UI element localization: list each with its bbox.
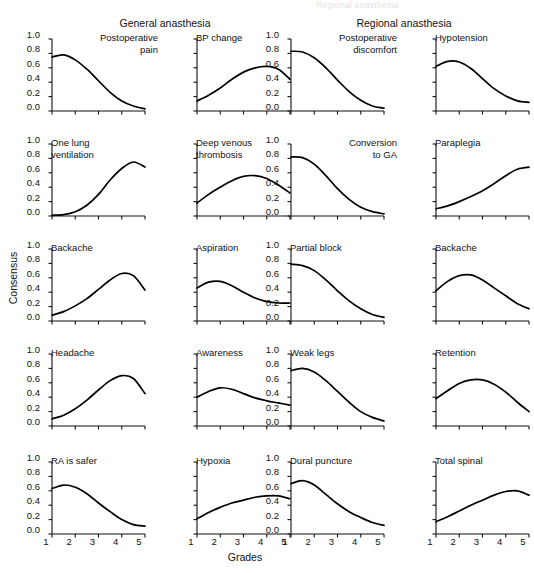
- x-tick-label: 2: [59, 536, 79, 547]
- y-tick-label: 0.2: [241, 87, 279, 98]
- panel-backache: [46, 245, 153, 329]
- data-curve: [52, 55, 145, 109]
- panel-plot-area: [430, 140, 534, 224]
- y-tick-label: 0.2: [241, 297, 279, 308]
- x-tick-label: 4: [251, 536, 271, 547]
- group-title-general: General anasthesia: [46, 17, 284, 29]
- x-tick-label: 1: [36, 536, 56, 547]
- y-tick-label: 0.8: [2, 148, 40, 159]
- y-tick-label: 0.2: [2, 510, 40, 521]
- y-tick-label: 0.6: [241, 163, 279, 174]
- y-tick-label: 0.6: [241, 58, 279, 69]
- y-tick-label: 0.2: [2, 402, 40, 413]
- x-tick-label: 2: [443, 536, 463, 547]
- panel-ra-is-safer: [46, 458, 153, 542]
- panel-plot-area: [46, 245, 153, 329]
- panel-plot-area: [285, 350, 392, 434]
- panel-title: Postoperative pain: [51, 32, 158, 55]
- x-tick-label: 1: [181, 536, 201, 547]
- y-tick-label: 0.0: [241, 524, 279, 535]
- panel-title: Dural puncture: [290, 455, 397, 467]
- data-curve: [291, 51, 384, 108]
- x-tick-label: 3: [228, 536, 248, 547]
- x-tick-label: 3: [83, 536, 103, 547]
- y-tick-label: 1.0: [2, 452, 40, 463]
- data-curve: [291, 481, 384, 526]
- y-tick-label: 0.8: [241, 148, 279, 159]
- y-tick-label: 1.0: [241, 134, 279, 145]
- y-tick-label: 0.4: [2, 495, 40, 506]
- y-tick-label: 1.0: [241, 452, 279, 463]
- panel-partial-block: [285, 245, 392, 329]
- panel-title: One lung ventilation: [51, 137, 158, 160]
- y-tick-label: 1.0: [2, 344, 40, 355]
- data-curve: [291, 264, 384, 317]
- panel-plot-area: [430, 35, 534, 119]
- panel-plot-area: [430, 245, 534, 329]
- y-tick-label: 1.0: [241, 239, 279, 250]
- panel-title: Retention: [435, 347, 534, 359]
- scan-artifact-text: Regional anasthesia: [316, 0, 487, 16]
- y-tick-label: 0.0: [2, 416, 40, 427]
- panel-plot-area: [285, 458, 392, 542]
- panel-plot-area: [430, 458, 534, 542]
- panel-weak-legs: [285, 350, 392, 434]
- y-tick-label: 0.6: [2, 481, 40, 492]
- panel-title: RA is safer: [51, 455, 158, 467]
- x-tick-label: 3: [322, 536, 342, 547]
- x-tick-label: 4: [106, 536, 126, 547]
- y-tick-label: 0.2: [2, 87, 40, 98]
- panel-plot-area: [46, 458, 153, 542]
- y-tick-label: 0.4: [2, 387, 40, 398]
- panel-title: Backache: [51, 242, 158, 254]
- y-tick-label: 0.8: [241, 466, 279, 477]
- y-tick-label: 0.2: [2, 192, 40, 203]
- y-tick-label: 0.6: [241, 268, 279, 279]
- panel-hypotension: [430, 35, 534, 119]
- y-tick-label: 1.0: [2, 134, 40, 145]
- group-title-regional: Regional anasthesia: [285, 17, 523, 29]
- data-curve: [291, 157, 384, 214]
- panel-title: Paraplegia: [435, 137, 534, 149]
- y-tick-label: 0.2: [241, 402, 279, 413]
- y-tick-label: 0.4: [2, 72, 40, 83]
- y-tick-label: 0.8: [2, 466, 40, 477]
- y-tick-label: 0.4: [241, 387, 279, 398]
- data-curve: [52, 162, 145, 215]
- x-tick-label: 5: [513, 536, 533, 547]
- y-tick-label: 1.0: [241, 29, 279, 40]
- data-curve: [52, 485, 145, 526]
- panel-plot-area: [430, 350, 534, 434]
- y-tick-label: 0.0: [2, 206, 40, 217]
- x-tick-label: 2: [204, 536, 224, 547]
- y-tick-label: 0.8: [2, 358, 40, 369]
- y-tick-label: 0.4: [241, 72, 279, 83]
- y-tick-label: 0.8: [2, 43, 40, 54]
- panel-dural-puncture: [285, 458, 392, 542]
- panel-retention: [430, 350, 534, 434]
- y-tick-label: 0.0: [2, 101, 40, 112]
- y-tick-label: 0.6: [2, 58, 40, 69]
- y-tick-label: 0.8: [241, 253, 279, 264]
- y-tick-label: 1.0: [2, 29, 40, 40]
- panel-paraplegia: [430, 140, 534, 224]
- panel-title: Backache: [435, 242, 534, 254]
- y-tick-label: 0.4: [241, 177, 279, 188]
- y-tick-label: 0.6: [241, 481, 279, 492]
- y-tick-label: 0.6: [2, 373, 40, 384]
- y-tick-label: 0.4: [241, 282, 279, 293]
- panel-title: Partial block: [290, 242, 397, 254]
- panel-title: Weak legs: [290, 347, 397, 359]
- y-tick-label: 0.2: [241, 510, 279, 521]
- x-tick-label: 2: [298, 536, 318, 547]
- data-curve: [436, 167, 529, 209]
- y-tick-label: 0.0: [241, 416, 279, 427]
- panel-plot-area: [285, 245, 392, 329]
- y-tick-label: 0.8: [241, 358, 279, 369]
- x-axis-title: Grades: [190, 551, 300, 563]
- x-tick-label: 1: [420, 536, 440, 547]
- y-tick-label: 0.2: [241, 192, 279, 203]
- panel-title: Total spinal: [435, 455, 534, 467]
- data-curve: [52, 273, 145, 315]
